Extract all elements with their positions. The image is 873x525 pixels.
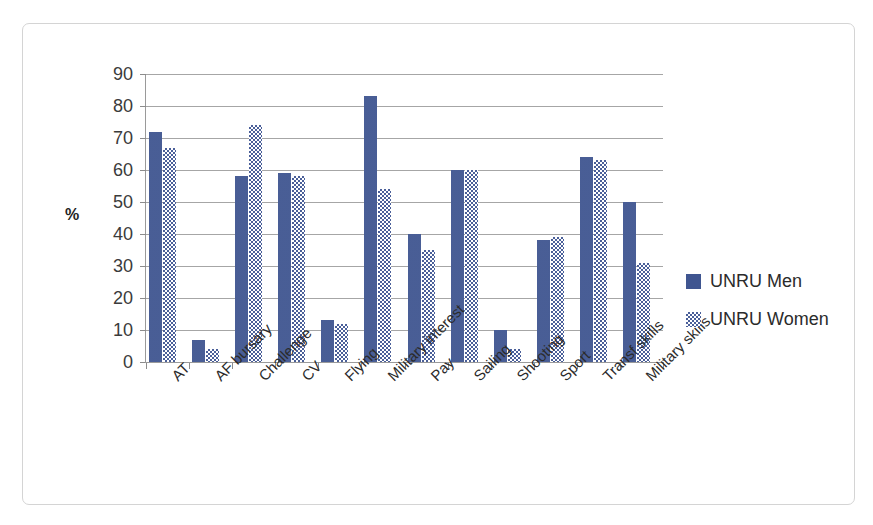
bar[interactable] <box>149 132 162 362</box>
y-axis-tick-labels: 9080706050403020100 <box>71 24 133 525</box>
y-tick-label: 90 <box>91 65 133 83</box>
chart-legend: UNRU MenUNRU Women <box>686 262 856 338</box>
y-tick-label: 10 <box>91 321 133 339</box>
y-tick-label: 20 <box>91 289 133 307</box>
chart-container: % 9080706050403020100 ATAF bursaryChalle… <box>22 23 855 505</box>
bar-group <box>491 74 534 362</box>
bar-group <box>189 74 232 362</box>
y-tick-label: 30 <box>91 257 133 275</box>
y-tick-label: 40 <box>91 225 133 243</box>
bar[interactable] <box>163 148 176 362</box>
bar[interactable] <box>594 160 607 362</box>
y-tick-label: 80 <box>91 97 133 115</box>
bar-group <box>361 74 404 362</box>
y-tick-label: 0 <box>91 353 133 371</box>
plot-area <box>146 74 663 362</box>
bar[interactable] <box>192 340 205 362</box>
bar[interactable] <box>278 173 291 362</box>
checkered-square-icon <box>686 312 701 327</box>
bar[interactable] <box>364 96 377 362</box>
bar-group <box>275 74 318 362</box>
legend-item[interactable]: UNRU Women <box>686 300 856 338</box>
legend-label: UNRU Women <box>710 310 829 328</box>
bar[interactable] <box>335 324 348 362</box>
bar-group <box>318 74 361 362</box>
bar-group <box>146 74 189 362</box>
bar[interactable] <box>235 176 248 362</box>
bar-group <box>577 74 620 362</box>
bar[interactable] <box>465 170 478 362</box>
legend-label: UNRU Men <box>710 272 802 290</box>
bar[interactable] <box>451 170 464 362</box>
y-tick-label: 50 <box>91 193 133 211</box>
solid-square-icon <box>686 274 701 289</box>
bar-group <box>534 74 577 362</box>
bar[interactable] <box>206 349 219 362</box>
y-tick-label: 70 <box>91 129 133 147</box>
bar[interactable] <box>378 189 391 362</box>
y-tick-label: 60 <box>91 161 133 179</box>
bar[interactable] <box>580 157 593 362</box>
bar[interactable] <box>321 320 334 362</box>
bar-group <box>232 74 275 362</box>
x-tick-mark <box>146 363 147 369</box>
legend-item[interactable]: UNRU Men <box>686 262 856 300</box>
